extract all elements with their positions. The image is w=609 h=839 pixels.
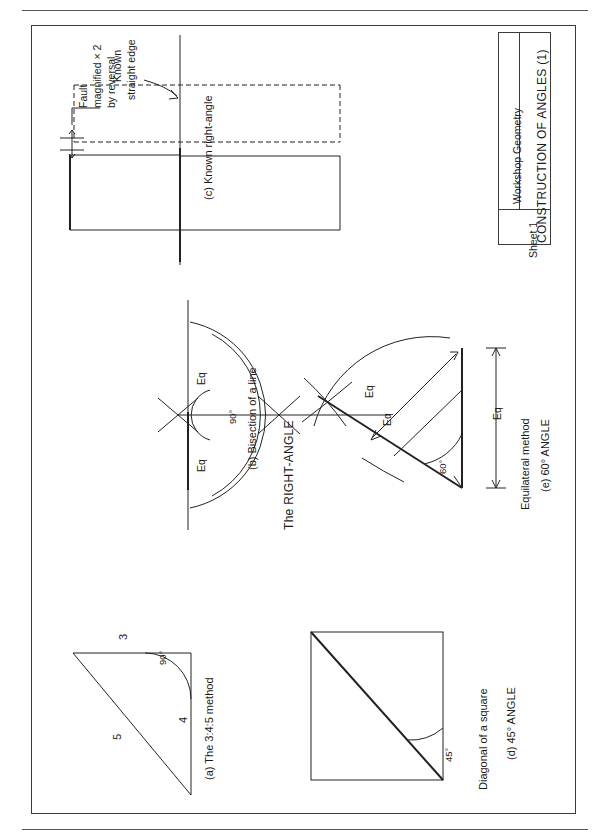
figure-a-side-5 bbox=[73, 653, 191, 795]
figure-c-edge-note-line1: Known bbox=[112, 50, 123, 82]
title-block-drawing-title: CONSTRUCTION OF ANGLES (1) bbox=[536, 49, 548, 243]
figure-a-label-3: 3 bbox=[118, 634, 129, 640]
figure-b-label-eq-lower: Eq bbox=[196, 459, 207, 472]
figure-d-label-angle: 45° bbox=[444, 748, 454, 762]
figure-a-label-5: 5 bbox=[112, 734, 123, 740]
title-block-course: Workshop Geometry bbox=[512, 108, 523, 204]
sheet-rule-bottom bbox=[22, 829, 588, 830]
figure-e-subcaption: Equilateral method bbox=[520, 418, 531, 510]
figure-e-dim-ray-inner bbox=[394, 390, 462, 456]
figure-c-fault-note-line2: magnified × 2 bbox=[92, 45, 103, 108]
figure-b-label-angle: 90° bbox=[228, 410, 238, 424]
figure-d-subcaption: Diagonal of a square bbox=[478, 688, 489, 790]
figure-d-caption: (d) 45° ANGLE bbox=[506, 687, 517, 760]
figure-e-label-eq-inner: Eq bbox=[382, 413, 393, 426]
figure-c-straight-edge-solid bbox=[70, 155, 180, 230]
figure-c-edge-leader bbox=[144, 80, 177, 96]
figure-e-label-eq-base: Eq bbox=[492, 407, 503, 420]
figure-c-edge-note-line2: straight edge bbox=[126, 39, 137, 100]
drawing-sheet: Fault magnified × 2 by reversal Known st… bbox=[0, 0, 609, 839]
figure-e-caption: (e) 60° ANGLE bbox=[540, 419, 551, 492]
figure-e-60-degree-angle bbox=[300, 330, 500, 530]
figure-a-label-angle: 90° bbox=[158, 651, 168, 665]
figure-e-cross-arcs bbox=[302, 378, 352, 426]
figure-e-tick-arc bbox=[362, 458, 404, 482]
sheet-rule-top bbox=[22, 10, 588, 11]
figure-e-label-angle: 60° bbox=[438, 460, 448, 474]
figure-a-angle-arc bbox=[145, 653, 191, 699]
figure-a-label-4: 4 bbox=[178, 717, 189, 723]
figure-b-label-eq-upper: Eq bbox=[196, 372, 207, 385]
title-block-sheet-number: Sheet 1 bbox=[528, 222, 539, 258]
figure-a-345-method bbox=[45, 595, 225, 805]
figure-d-angle-arc bbox=[407, 728, 443, 740]
heading-right-angle: The RIGHT-ANGLE bbox=[283, 420, 295, 530]
figure-d-45-degree-angle bbox=[305, 612, 485, 812]
figure-a-caption: (a) The 3:4:5 method bbox=[204, 677, 215, 780]
figure-c-fault-note-line1: Fault bbox=[78, 85, 89, 108]
figure-b-caption: (b) Bisection of a line bbox=[247, 367, 258, 470]
figure-c-fault-leader bbox=[72, 108, 100, 125]
figure-d-diagonal bbox=[311, 632, 443, 780]
figure-e-label-eq-outer: Eq bbox=[364, 385, 375, 398]
figure-c-fault-gap-arrow bbox=[60, 130, 84, 158]
figure-c-caption: (c) Known right-angle bbox=[203, 95, 214, 200]
